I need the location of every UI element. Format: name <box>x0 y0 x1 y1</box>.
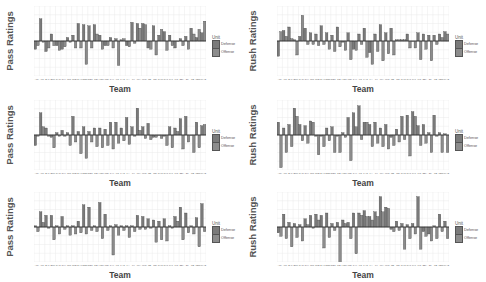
x-tick-label: PIT <box>175 78 179 81</box>
x-tick-label: MIN <box>142 172 146 175</box>
x-tick-label: KC <box>116 264 119 267</box>
plot-area <box>277 192 449 262</box>
x-tick-label: DET <box>88 172 93 175</box>
bar-cin-offense <box>312 41 315 45</box>
bar-nyj-defense <box>163 32 166 41</box>
bar-ind-offense <box>107 227 110 231</box>
bar-car-offense <box>58 227 61 234</box>
bar-sf-offense <box>430 41 433 61</box>
bar-cle-defense <box>72 35 75 41</box>
x-tick-label: CAR <box>56 264 61 267</box>
bar-min-defense <box>142 127 145 135</box>
bar-ne-offense <box>393 227 396 232</box>
x-tick-label: LV <box>132 264 135 267</box>
bar-bal-offense <box>290 135 293 147</box>
bar-mia-defense <box>136 24 139 42</box>
bar-dal-offense <box>80 135 83 154</box>
x-tick-label: SF <box>429 78 432 81</box>
x-tick-label: CLE <box>72 78 77 81</box>
bar-chi-defense <box>304 28 307 41</box>
x-tick-label: CAR <box>299 172 304 175</box>
x-tick-label: NO <box>153 172 157 175</box>
bar-det-offense <box>90 135 93 142</box>
x-tick-label: ATL <box>40 172 44 175</box>
x-tick-label: NYJ <box>406 264 411 267</box>
bar-chi-defense <box>61 130 64 135</box>
bar-buf-offense <box>53 135 56 148</box>
x-tick-label: SEA <box>422 264 427 267</box>
x-tick-label: NE <box>148 264 151 267</box>
x-tick-label: LAC <box>120 264 125 267</box>
x-tick-label: MIA <box>137 78 141 81</box>
bar-cle-offense <box>74 227 77 234</box>
legend-swatch-offense <box>455 48 463 57</box>
bar-ari-defense <box>34 41 37 49</box>
bar-ten-offense <box>198 135 201 148</box>
bar-ne-defense <box>390 28 393 41</box>
x-tick-label: SF <box>186 78 189 81</box>
x-tick-label: KC <box>116 78 119 81</box>
bar-la-defense <box>368 125 371 136</box>
bar-nyj-defense <box>406 34 409 41</box>
bar-ne-defense <box>147 219 150 227</box>
x-axis-label: Team <box>277 270 449 280</box>
bar-lv-offense <box>133 227 136 232</box>
bar-kc-defense <box>358 34 361 41</box>
x-tick-label: NYJ <box>163 264 168 267</box>
bar-lac-offense <box>123 227 126 231</box>
bar-dal-defense <box>77 221 80 227</box>
bar-ind-defense <box>347 118 350 136</box>
bar-tb-offense <box>193 34 196 41</box>
bar-no-defense <box>395 129 398 135</box>
bar-chi-defense <box>61 41 64 49</box>
bar-det-offense <box>90 41 93 48</box>
legend-item-offense: Offense <box>212 48 242 56</box>
x-tick-label: CIN <box>310 264 314 267</box>
bar-atl-offense <box>42 127 45 135</box>
x-tick-label: ATL <box>40 264 44 267</box>
bar-ind-offense <box>107 135 110 146</box>
x-tick-label: NE <box>391 78 394 81</box>
bar-pit-offense <box>419 41 422 60</box>
legend-swatch-offense <box>455 142 463 151</box>
x-tick-label: WAS <box>201 172 206 175</box>
x-tick-label: GB <box>337 172 340 175</box>
x-tick-label: MIA <box>380 78 384 81</box>
bar-det-defense <box>88 207 91 227</box>
bar-nyg-defense <box>401 116 404 135</box>
x-tick-label: HOU <box>342 78 347 81</box>
bar-lv-defense <box>374 122 377 135</box>
bar-pit-offense <box>419 135 422 146</box>
bar-jax-defense <box>352 41 355 49</box>
bar-nyj-defense <box>406 115 409 135</box>
bar-ari-defense <box>277 122 280 135</box>
x-tick-label: SEA <box>422 78 427 81</box>
bar-car-offense <box>301 227 304 241</box>
x-tick-label: NO <box>153 264 157 267</box>
bar-atl-offense <box>285 227 288 239</box>
x-tick-label: SF <box>186 264 189 267</box>
x-tick-labels: ARIATLBALBUFCARCHICINCLEDALDENDETGBHOUIN… <box>34 172 206 176</box>
bar-lac-offense <box>366 41 369 57</box>
panel-rush-ratings-1: Rush Ratings ARIATLBALBUFCARCHICINCLEDAL… <box>243 0 486 94</box>
x-tick-label: CIN <box>67 78 71 81</box>
bar-was-offense <box>446 34 449 41</box>
x-tick-label: DEN <box>83 172 88 175</box>
bar-ne-defense <box>147 41 150 48</box>
bar-jax-offense <box>355 41 358 50</box>
bar-buf-offense <box>296 116 299 135</box>
x-axis-label: Team <box>34 270 206 280</box>
x-tick-label: IND <box>104 172 108 175</box>
bar-hou-defense <box>99 35 102 41</box>
x-tick-label: ATL <box>283 78 287 81</box>
x-tick-label: NYG <box>158 78 163 81</box>
bar-tb-offense <box>436 41 439 45</box>
bar-nyg-defense <box>158 35 161 41</box>
x-tick-label: DET <box>88 264 93 267</box>
x-tick-label: CHI <box>61 78 65 81</box>
bar-la-defense <box>368 217 371 228</box>
bar-sf-offense <box>187 135 190 142</box>
bar-ne-offense <box>150 41 153 49</box>
bar-sf-offense <box>430 135 433 153</box>
bar-atl-defense <box>282 128 285 135</box>
